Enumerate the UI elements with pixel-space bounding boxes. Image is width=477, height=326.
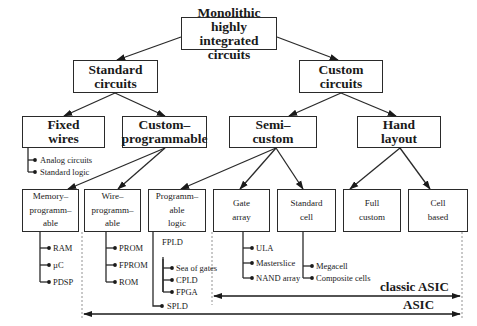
leaf-ram: RAM	[53, 243, 72, 253]
leaf-composite-cells: Composite cells	[316, 273, 371, 283]
root-node-monolithic-ics: Monolithic highly integrated circuits	[181, 17, 277, 50]
node-standard-circuits: Standard circuits	[73, 60, 158, 93]
root-node-label: Monolithic highly integrated circuits	[182, 6, 276, 62]
leaf-standard-logic: Standard logic	[40, 167, 89, 177]
node-label: Cell based	[428, 197, 449, 224]
node-label: Hand layout	[381, 118, 417, 146]
leaf-rom: ROM	[119, 277, 138, 287]
range-label-classic-asic: classic ASIC	[380, 279, 449, 295]
node-semi-custom: Semi– custom	[229, 116, 317, 148]
node-label: Wire– programm– able	[92, 190, 134, 231]
node-full-custom: Full custom	[343, 189, 401, 232]
leaf-masterslice: Masterslice	[256, 258, 295, 268]
node-gate-array: Gate array	[213, 189, 270, 232]
leaf-sea-of-gates: Sea of gates	[176, 263, 217, 273]
leaf-nand-array: NAND array	[256, 273, 300, 283]
node-fixed-wires: Fixed wires	[22, 116, 105, 148]
node-label: Standard cell	[291, 197, 323, 224]
node-custom-programmable: Custom– programmable	[122, 116, 207, 148]
range-label-asic: ASIC	[403, 297, 434, 313]
leaf-fprom: FPROM	[119, 260, 148, 270]
node-label: Gate array	[232, 197, 250, 224]
node-label: Programm– able logic	[156, 190, 199, 231]
node-wire-programmable: Wire– programm– able	[84, 189, 141, 232]
node-label: Semi– custom	[252, 118, 293, 146]
leaf-cpld: CPLD	[176, 275, 198, 285]
leaf-fpga: FPGA	[176, 287, 198, 297]
node-label: Memory– programm– able	[30, 190, 72, 231]
leaf-prom: PROM	[119, 243, 143, 253]
leaf-spld: SPLD	[167, 301, 188, 311]
node-custom-circuits: Custom circuits	[299, 60, 383, 93]
node-cell-based: Cell based	[408, 189, 468, 232]
leaf-ula: ULA	[256, 243, 273, 253]
node-standard-cell: Standard cell	[277, 189, 336, 232]
node-label: Custom– programmable	[122, 118, 208, 146]
node-hand-layout: Hand layout	[357, 116, 441, 148]
leaf-microcontroller: µC	[53, 260, 64, 270]
node-label: Standard circuits	[88, 63, 142, 91]
leaf-analog-circuits: Analog circuits	[40, 155, 92, 165]
node-programmable-logic: Programm– able logic	[148, 189, 206, 232]
node-label: Full custom	[359, 197, 385, 224]
leaf-pdsp: PDSP	[53, 277, 73, 287]
leaf-megacell: Megacell	[316, 261, 348, 271]
leaf-group-fpld: FPLD	[162, 237, 183, 247]
node-label: Fixed wires	[47, 118, 79, 146]
node-label: Custom circuits	[318, 63, 363, 91]
node-memory-programmable: Memory– programm– able	[22, 189, 79, 232]
